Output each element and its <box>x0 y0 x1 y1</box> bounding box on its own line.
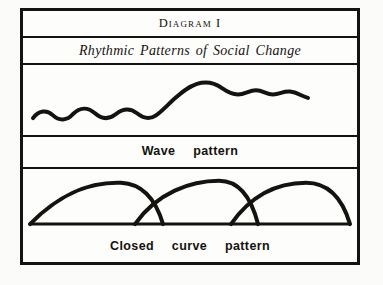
closed-curve-panel <box>23 169 357 230</box>
closed-curve-caption-band: Closed curve pattern <box>23 230 357 262</box>
wave-pattern-label: Wave pattern <box>142 144 239 158</box>
diagram-subtitle: Rhythmic Patterns of Social Change <box>79 43 301 59</box>
wave-caption-band: Wave pattern <box>23 135 357 169</box>
diagram-title-band: Diagram I <box>23 11 357 38</box>
diagram-subtitle-band: Rhythmic Patterns of Social Change <box>23 38 357 65</box>
wave-panel <box>23 65 357 137</box>
wave-pattern-curve <box>23 65 357 135</box>
diagram-frame: Diagram I Rhythmic Patterns of Social Ch… <box>20 8 360 265</box>
closed-curve-pattern-curve <box>23 169 357 230</box>
closed-curve-pattern-label: Closed curve pattern <box>110 239 270 253</box>
scanned-page: Diagram I Rhythmic Patterns of Social Ch… <box>0 0 383 285</box>
page-title: Diagram I <box>159 16 222 31</box>
